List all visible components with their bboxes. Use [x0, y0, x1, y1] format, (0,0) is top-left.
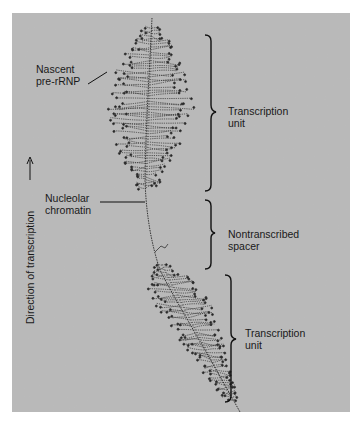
bracket-transcription-unit-bottom: [225, 275, 236, 402]
label-line: Nascent: [36, 63, 80, 75]
label-line: unit: [245, 339, 305, 351]
transcription-unit-fern-top: [107, 26, 194, 190]
label-line: Nontranscribed: [228, 228, 299, 240]
label-line: unit: [228, 117, 288, 129]
bracket-transcription-unit-top: [205, 35, 216, 191]
transcription-unit-fern-bottom: [147, 263, 237, 402]
label-nucleolar-chromatin: Nucleolar chromatin: [45, 192, 91, 216]
nascent-leader-line: [88, 72, 107, 84]
label-nascent-pre-rrnp: Nascent pre-rRNP: [36, 63, 80, 87]
label-line: Transcription: [245, 327, 305, 339]
label-line: spacer: [228, 240, 299, 252]
label-line: pre-rRNP: [36, 75, 80, 87]
label-transcription-unit-top: Transcription unit: [228, 105, 288, 129]
bracket-spacer: [205, 200, 215, 269]
label-line: Transcription: [228, 105, 288, 117]
label-line: chromatin: [45, 204, 91, 216]
label-line: Nucleolar: [45, 192, 91, 204]
label-nontranscribed-spacer: Nontranscribed spacer: [228, 228, 299, 252]
label-transcription-unit-bottom: Transcription unit: [245, 327, 305, 351]
label-direction-of-transcription: Direction of transcription: [24, 211, 36, 324]
